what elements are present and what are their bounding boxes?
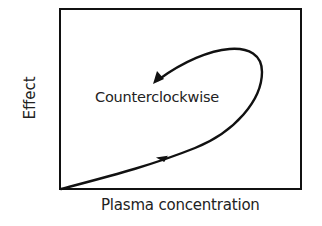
loop-path xyxy=(61,49,262,189)
loop-direction-label: Counterclockwise xyxy=(95,89,219,105)
hysteresis-curve xyxy=(0,0,322,226)
y-axis-label: Effect xyxy=(21,76,39,119)
x-axis-label: Plasma concentration xyxy=(101,196,260,214)
arrowhead-back-icon xyxy=(153,71,164,84)
